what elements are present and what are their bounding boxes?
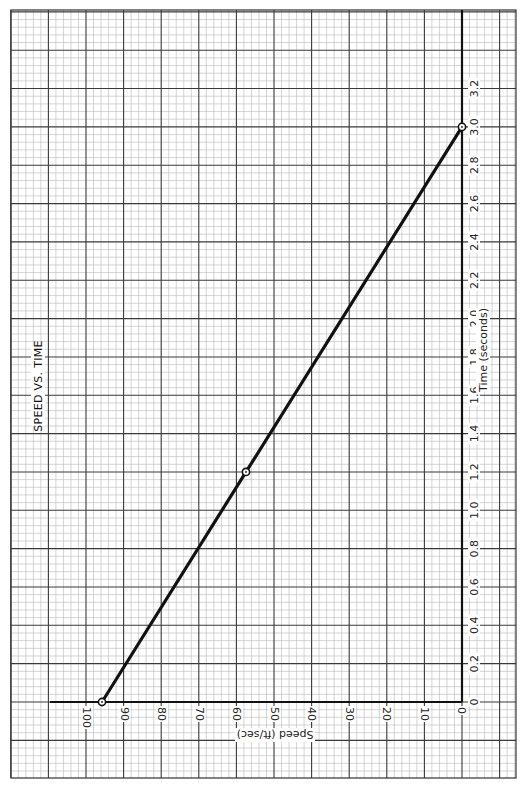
time-tick-label: 2.2 xyxy=(468,272,481,290)
speed-tick-label: 20 xyxy=(380,707,393,721)
speed-tick-label: 90 xyxy=(118,707,131,721)
time-tick-label: 3.0 xyxy=(468,118,481,135)
speed-tick-label: 0 xyxy=(455,707,468,714)
time-axis-label: Time (seconds) xyxy=(477,308,490,393)
speed-axis-label: Speed (ft/sec) xyxy=(237,728,314,741)
time-tick-label: 2.4 xyxy=(468,233,481,251)
speed-tick-label: 50 xyxy=(268,707,281,721)
speed-tick-label: 10 xyxy=(418,707,431,721)
minor-grid xyxy=(11,10,516,778)
time-tick-label: 3.2 xyxy=(468,80,481,98)
speed-vs-time-chart: 0102030405060708090100 00.20.40.60.81.01… xyxy=(0,0,526,790)
time-tick-label: 2.6 xyxy=(468,195,481,213)
time-tick-label: 2.8 xyxy=(468,156,481,174)
time-tick-label: 1.0 xyxy=(468,502,481,520)
speed-tick-label: 70 xyxy=(193,707,206,721)
chart-title: SPEED VS. TIME xyxy=(32,340,45,432)
major-grid xyxy=(11,10,516,778)
speed-tick-label: 80 xyxy=(155,707,168,721)
speed-tick-label: 40 xyxy=(305,707,318,721)
grid-border xyxy=(11,10,516,778)
time-tick-label: 1.2 xyxy=(468,463,481,481)
speed-tick-label: 100 xyxy=(80,707,93,728)
time-tick-label: 1.4 xyxy=(468,425,481,443)
speed-tick-label: 30 xyxy=(343,707,356,721)
time-tick-label: 0.6 xyxy=(468,578,481,596)
speed-tick-label: 60 xyxy=(230,707,243,721)
time-tick-label: 0.4 xyxy=(468,617,481,635)
time-tick-label: 0.8 xyxy=(468,540,481,558)
time-tick-label: 0.2 xyxy=(468,655,481,673)
speed-line xyxy=(102,127,462,702)
time-tick-label: 0 xyxy=(468,699,481,706)
